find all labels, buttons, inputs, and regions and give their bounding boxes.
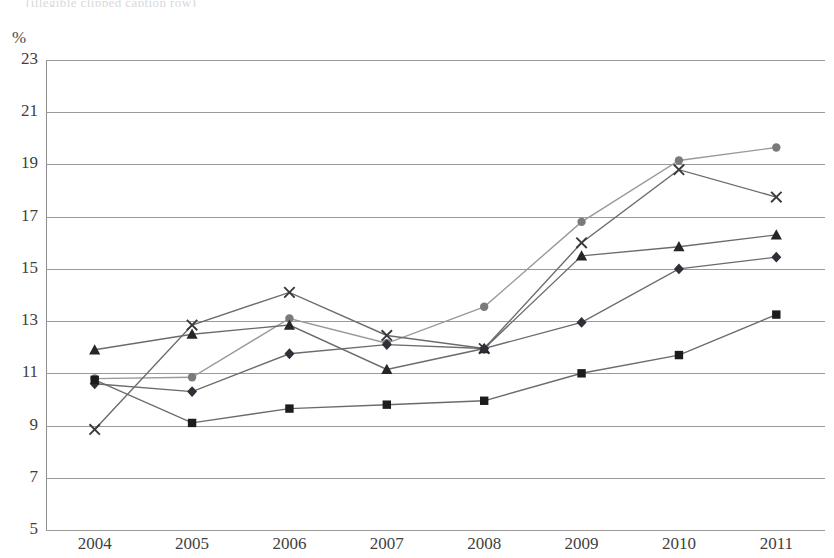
series-diamond-dark-marker [577, 317, 587, 328]
series-triangle-black-line [95, 235, 777, 370]
series-cross-dark-marker [89, 424, 99, 434]
series-diamond-dark-marker [284, 348, 294, 359]
series-circle-gray-marker [577, 218, 585, 226]
series-square-black-marker [188, 419, 196, 427]
line-chart: (illegible clipped caption row) % 232119… [0, 0, 834, 558]
series-square-black-marker [480, 397, 488, 405]
series-circle-gray-marker [480, 303, 488, 311]
series-diamond-dark-marker [187, 386, 197, 397]
series-square-black-marker [383, 400, 391, 408]
series-diamond-dark-marker [771, 252, 781, 263]
series-cross-dark-line [95, 170, 777, 430]
series-circle-gray-marker [188, 373, 196, 381]
series-square-black-line [95, 315, 777, 423]
series-cross-dark-marker [771, 192, 781, 202]
series-diamond-dark-marker [382, 339, 392, 350]
series-square-black-marker [772, 310, 780, 318]
series-cross-dark-marker [576, 238, 586, 248]
series-diamond-dark-marker [674, 263, 684, 274]
series-triangle-black-marker [771, 229, 782, 239]
series-cross-dark-marker [674, 164, 684, 174]
series-circle-gray-line [95, 148, 777, 379]
series-square-black-marker [285, 404, 293, 412]
series-square-black-marker [577, 369, 585, 377]
series-square-black-marker [675, 351, 683, 359]
series-cross-dark-marker [284, 287, 294, 297]
series-circle-gray-marker [772, 143, 780, 151]
series-circle-gray-marker [675, 156, 683, 164]
series-square-black-marker [90, 376, 98, 384]
series-layer [0, 0, 834, 558]
